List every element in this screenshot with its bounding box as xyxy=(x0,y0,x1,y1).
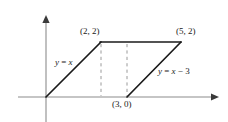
point-label-2-2: (2, 2) xyxy=(80,27,100,36)
equation-right-equals: = xyxy=(162,66,172,76)
point-label-3-0: (3, 0) xyxy=(112,100,132,109)
x-axis-arrowhead xyxy=(211,93,219,100)
equation-left-equals: = xyxy=(59,57,69,67)
y-axis-arrowhead xyxy=(42,15,49,23)
equation-left-variable-x: x xyxy=(69,57,73,67)
math-figure: (2, 2) (5, 2) (3, 0) y = x y = x − 3 xyxy=(0,0,228,122)
point-label-5-2: (5, 2) xyxy=(176,27,196,36)
equation-label-y-equals-x-minus-3: y = x − 3 xyxy=(158,67,190,76)
equation-right-constant: − 3 xyxy=(176,66,190,76)
line-y-equals-x xyxy=(46,42,101,97)
equation-label-y-equals-x: y = x xyxy=(55,58,73,67)
